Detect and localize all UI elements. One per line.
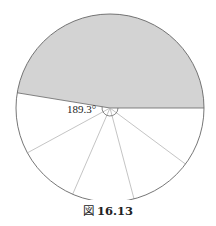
shaded-sector [17, 14, 204, 108]
figure-caption-prefix: 図 [83, 204, 94, 218]
circle-group [16, 14, 204, 200]
pie-diagram [0, 0, 216, 200]
figure-caption: 図16.13 [0, 202, 216, 218]
angle-label: 189.3° [67, 103, 96, 115]
figure-caption-number: 16.13 [97, 204, 133, 218]
